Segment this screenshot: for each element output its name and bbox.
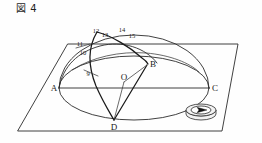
figure-container: 図 4 A B C O D 9 (0, 0, 262, 143)
compass-disc-icon (186, 104, 216, 120)
label-point-a: A (51, 83, 58, 93)
marker-10: 10 (80, 49, 87, 56)
marker-12: 12 (93, 27, 100, 34)
segment-BD (114, 65, 147, 120)
marker-14: 14 (119, 26, 126, 33)
marker-13: 13 (102, 31, 109, 38)
marker-15: 15 (129, 32, 136, 39)
geometry-diagram: A B C O D 9 10 11 12 13 14 15 (0, 0, 262, 143)
label-point-d: D (111, 122, 118, 132)
upper-arc-left (59, 44, 157, 88)
marker-9: 9 (86, 70, 89, 77)
label-point-b: B (150, 59, 156, 69)
label-point-o: O (121, 72, 128, 82)
segment-OB (124, 65, 147, 82)
label-point-c: C (212, 83, 218, 93)
marker-11: 11 (77, 40, 83, 47)
